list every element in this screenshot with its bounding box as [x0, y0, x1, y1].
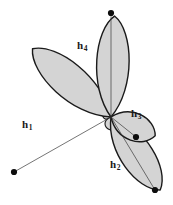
orbital-tip-dot-h3 [133, 134, 139, 140]
orbital-tip-dot-h1 [11, 169, 17, 175]
orbital-label-h4: h4 [77, 40, 87, 51]
orbital-label-h3: h3 [131, 108, 141, 119]
orbital-label-h4-subscript: 4 [84, 44, 88, 53]
sp3-orbital-figure: h1 h2 h3 h4 [0, 0, 173, 205]
orbital-tip-dot-h2 [152, 187, 158, 193]
orbital-label-h2: h2 [110, 159, 120, 170]
main-lobe-group-front [110, 112, 162, 190]
orbital-label-h3-subscript: 3 [138, 112, 142, 121]
orbital-label-h3-letter: h [131, 107, 137, 119]
orbital-label-h2-letter: h [110, 158, 116, 170]
orbital-label-h1-subscript: 1 [29, 123, 33, 132]
main-lobe-group-back [32, 16, 129, 117]
orbital-tip-dot-h4 [108, 10, 114, 16]
orbital-label-h1: h1 [22, 119, 32, 130]
orbital-diagram-canvas [0, 0, 173, 205]
orbital-label-h2-subscript: 2 [117, 163, 121, 172]
orbital-label-h1-letter: h [22, 118, 28, 130]
orbital-label-h4-letter: h [77, 39, 83, 51]
